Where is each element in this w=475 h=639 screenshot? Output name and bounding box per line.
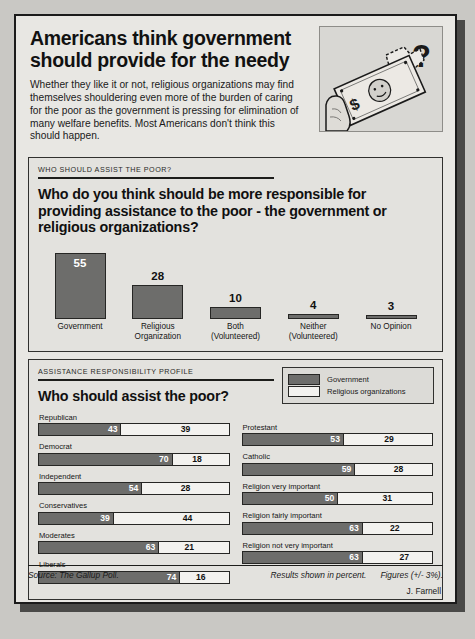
hbar-value-government: 59 — [342, 465, 352, 474]
bar-religious-organization — [132, 285, 183, 319]
infographic-page: Americans think government should provid… — [0, 0, 475, 639]
hbar-track: 43 39 — [38, 423, 230, 436]
panel-assistance-responsibility-profile: ASSISTANCE RESPONSIBILITY PROFILE Who sh… — [28, 359, 443, 599]
bar-label-government: Government — [42, 322, 118, 342]
hbar-group-republican: Republican 43 39 — [38, 413, 230, 437]
bar-government: 55 — [55, 253, 106, 319]
intro-paragraph: Whether they like it or not, religious o… — [30, 79, 302, 144]
bar-label-neither: Neither (Volunteered) — [275, 322, 351, 342]
label-line: No Opinion — [353, 322, 429, 332]
hbar-label: Protestant — [243, 423, 434, 432]
hbar-value-government: 63 — [349, 553, 359, 562]
bar-column: 3 — [353, 301, 429, 320]
hbar-label: Moderates — [39, 531, 230, 540]
hbar-column-left: Republican 43 39 Democrat 70 18 — [38, 413, 230, 590]
hbar-value-religious: 22 — [390, 524, 400, 533]
hbar-label: Catholic — [243, 452, 434, 461]
legend-label: Government — [327, 375, 369, 384]
hbar-group-moderates: Moderates 63 21 — [38, 531, 230, 555]
hbar-column-right: Protestant 53 29 Catholic 59 28 — [242, 413, 434, 590]
label-line: Government — [42, 322, 118, 332]
hbar-group-religion-not-very-important: Religion not very important 63 27 — [242, 541, 434, 565]
page-title: Americans think government should provid… — [30, 28, 308, 72]
vertical-bar-labels: Government Religious Organization Both (… — [38, 319, 433, 342]
hbar-track: 63 27 — [242, 551, 434, 564]
panel1-kicker: WHO SHOULD ASSIST THE POOR? — [38, 165, 433, 174]
hbar-track: 70 18 — [38, 453, 230, 466]
infographic-card: Americans think government should provid… — [14, 14, 457, 604]
bar-column: 10 — [198, 293, 274, 320]
hbar-value-religious: 21 — [185, 543, 195, 552]
hbar-value-government: 39 — [100, 514, 110, 523]
bar-value: 4 — [310, 300, 316, 312]
hbar-track: 59 28 — [242, 463, 434, 476]
bar-no-opinion — [366, 315, 417, 319]
hbar-value-government: 70 — [159, 455, 169, 464]
hbar-group-protestant: Protestant 53 29 — [242, 423, 434, 447]
hbar-label: Conservatives — [39, 501, 230, 510]
hbar-value-religious: 28 — [181, 484, 191, 493]
legend-swatch-religious-organizations-icon — [288, 386, 320, 397]
panel2-rule — [38, 379, 274, 381]
units-note: Results shown in percent. — [270, 570, 366, 580]
label-line: Organization — [120, 332, 196, 342]
margin-of-error-note: Figures (+/- 3%). — [380, 570, 443, 580]
hbar-value-religious: 31 — [382, 494, 392, 503]
hbar-value-government: 43 — [108, 425, 118, 434]
hbar-label: Democrat — [39, 442, 230, 451]
hbar-track: 54 28 — [38, 482, 230, 495]
hbar-track: 63 21 — [38, 541, 230, 554]
label-line: Religious — [120, 322, 196, 332]
vertical-bar-chart: 55 55 28 10 4 3 — [38, 245, 433, 319]
bar-both — [210, 307, 261, 319]
bar-neither — [288, 314, 339, 319]
hbar-group-conservatives: Conservatives 39 44 — [38, 501, 230, 525]
bar-column: 55 55 — [42, 239, 118, 320]
horizontal-bar-chart: Republican 43 39 Democrat 70 18 — [38, 413, 433, 590]
label-line: Both — [198, 322, 274, 332]
panel1-question: Who do you think should be more responsi… — [38, 186, 433, 235]
bar-label-religious-organization: Religious Organization — [120, 322, 196, 342]
hbar-label: Religion fairly important — [243, 511, 434, 520]
hbar-value-government: 54 — [129, 484, 139, 493]
hbar-track: 50 31 — [242, 492, 434, 505]
hbar-track: 53 29 — [242, 433, 434, 446]
bar-label-no-opinion: No Opinion — [353, 322, 429, 342]
hbar-value-religious: 39 — [181, 425, 191, 434]
bar-value: 28 — [151, 271, 164, 283]
label-line: (Volunteered) — [275, 332, 351, 342]
bar-label-both: Both (Volunteered) — [198, 322, 274, 342]
legend-label: Religious organizations — [327, 387, 406, 396]
hbar-group-religion-fairly-important: Religion fairly important 63 22 — [242, 511, 434, 535]
label-line: (Volunteered) — [198, 332, 274, 342]
legend-item-religious-organizations: Religious organizations — [288, 386, 428, 397]
hand-holding-dollar-bill-with-question-mark-icon: ? $ — [319, 26, 443, 132]
bar-value: 55 — [56, 258, 105, 270]
hbar-value-religious: 18 — [192, 455, 202, 464]
bar-value: 3 — [388, 301, 394, 313]
label-line: Neither — [275, 322, 351, 332]
bar-column: 4 — [275, 300, 351, 320]
legend-item-government: Government — [288, 374, 428, 385]
hbar-value-government: 63 — [349, 524, 359, 533]
hbar-group-catholic: Catholic 59 28 — [242, 452, 434, 476]
hbar-label: Independent — [39, 472, 230, 481]
hbar-label: Republican — [39, 413, 230, 422]
hbar-value-religious: 29 — [384, 435, 394, 444]
footer: Source: The Gallup Poll. Results shown i… — [28, 565, 443, 580]
panel-who-should-assist: WHO SHOULD ASSIST THE POOR? Who do you t… — [28, 157, 443, 352]
footer-notes: Results shown in percent. Figures (+/- 3… — [270, 570, 443, 580]
hbar-group-democrat: Democrat 70 18 — [38, 442, 230, 466]
legend-swatch-government-icon — [288, 374, 320, 385]
byline: J. Farnell — [407, 586, 441, 596]
hbar-label: Religion very important — [243, 482, 434, 491]
hbar-value-religious: 44 — [183, 514, 193, 523]
hbar-value-government: 53 — [330, 435, 340, 444]
hbar-group-religion-very-important: Religion very important 50 31 — [242, 482, 434, 506]
hbar-label: Religion not very important — [243, 541, 434, 550]
bar-value: 10 — [229, 293, 242, 305]
header: Americans think government should provid… — [16, 16, 455, 149]
source-note: Source: The Gallup Poll. — [28, 570, 119, 580]
hbar-value-government: 50 — [325, 494, 335, 503]
hbar-value-religious: 28 — [394, 465, 404, 474]
